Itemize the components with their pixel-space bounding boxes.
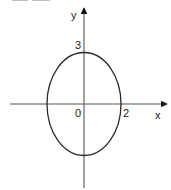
y-intercept-label: 3 xyxy=(75,39,81,51)
y-axis-label: y xyxy=(71,9,77,21)
ellipse-diagram: y x 0 2 3 xyxy=(0,0,171,190)
x-axis-label: x xyxy=(155,109,161,121)
origin-label: 0 xyxy=(75,107,81,119)
x-intercept-label: 2 xyxy=(123,107,129,119)
